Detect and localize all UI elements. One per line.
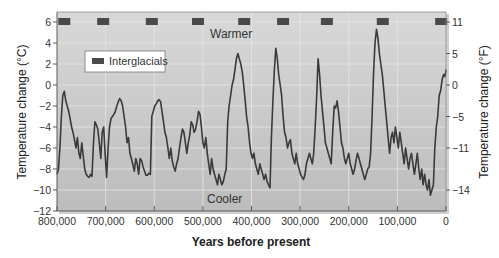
y-axis-title-left: Temperature change (°C) [15,45,29,180]
x-tick-label: 100,000 [378,215,416,227]
interglacial-marker [321,18,333,25]
y-axis-title-right: Temperature change (°F) [477,45,491,179]
y-right-tick-label: 5 [452,48,458,60]
interglacial-marker [377,18,389,25]
x-axis-title: Years before present [192,235,311,249]
x-tick-label: 600,000 [135,215,173,227]
y-tick-label: 2 [45,58,51,70]
warmer-label: Warmer [210,27,252,41]
y-tick-label: 0 [45,79,51,91]
cooler-label: Cooler [207,192,242,206]
interglacial-marker [97,18,109,25]
interglacial-marker [58,18,70,25]
y-tick-label: −8 [39,163,51,175]
left-axis: 6420−2−4−6−8−10−12 [33,16,57,217]
y-right-tick-label: −14 [452,184,470,196]
x-tick-label: 200,000 [330,215,368,227]
legend: Interglacials [85,51,168,72]
x-tick-label: 0 [443,215,449,227]
y-tick-label: −10 [33,184,51,196]
x-tick-label: 300,000 [281,215,319,227]
y-right-tick-label: −5 [452,111,464,123]
interglacial-marker [192,18,204,25]
plot-shadow-right [446,14,449,213]
interglacial-marker [238,18,250,25]
y-right-tick-label: −11 [452,142,469,154]
right-axis: 1150−5−11−14 [446,16,470,196]
temperature-chart: 6420−2−4−6−8−10−12 1150−5−11−14 800,0007… [0,0,499,258]
y-right-tick-label: 11 [452,16,463,28]
legend-swatch-interglacial [92,58,104,64]
y-right-tick-label: 0 [452,79,458,91]
legend-label: Interglacials [109,55,168,67]
interglacial-marker [146,18,158,25]
x-tick-label: 400,000 [233,215,271,227]
y-tick-label: −6 [39,142,51,154]
x-tick-label: 800,000 [38,215,76,227]
x-tick-label: 500,000 [184,215,222,227]
x-tick-label: 700,000 [87,215,125,227]
interglacial-marker [435,18,447,25]
y-tick-label: −2 [39,100,51,112]
y-tick-label: 4 [45,37,51,49]
y-tick-label: −4 [39,121,51,133]
y-tick-label: 6 [45,16,51,28]
interglacial-marker [277,18,289,25]
